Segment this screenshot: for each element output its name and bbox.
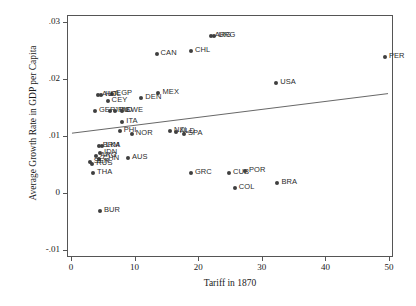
data-point-label: THA [97,167,112,176]
data-point-marker [130,132,134,136]
data-point-label: ITA [126,116,137,125]
data-point-marker [275,181,279,185]
data-point-label: RUS [96,158,112,167]
data-point-marker [126,156,130,160]
y-tick-mark [63,22,67,23]
data-point-marker [168,129,172,133]
data-point-marker [106,99,110,103]
y-tick-label: -.01 [20,244,60,254]
data-point-marker [189,49,193,53]
y-tick-mark [63,193,67,194]
data-point-label: AUS [132,152,148,161]
x-tick-label: 0 [51,262,91,272]
data-point-marker [155,52,159,56]
data-point-label: SPA [188,128,203,137]
data-point-label: NOR [136,128,153,137]
data-point-label: CHL [195,45,210,54]
x-axis-title: Tariff in 1870 [67,278,393,288]
data-point-label: URG [218,30,235,39]
data-point-label: PER [389,51,405,60]
data-point-marker [383,55,387,59]
data-point-marker [227,171,231,175]
scatter-plot-figure: Average Growth Rate in GDP per Capita AR… [0,0,416,306]
x-tick-mark [389,257,390,261]
x-tick-label: 30 [242,262,282,272]
x-tick-label: 50 [369,262,409,272]
data-point-label: MEX [162,87,179,96]
x-tick-mark [135,257,136,261]
data-point-label: CUB [233,167,249,176]
data-point-label: DEN [145,92,161,101]
data-point-marker [120,120,124,124]
x-tick-mark [325,257,326,261]
data-point-label: BUR [104,205,120,214]
x-tick-label: 10 [115,262,155,272]
data-point-marker [113,109,117,113]
plot-area: ARGURGCHLCANPERUSAMEXEGPAUTHOLDENCEYGERJ… [68,16,392,256]
data-point-marker [108,109,112,113]
data-point-label: POR [249,165,266,174]
plot-frame: ARGURGCHLCANPERUSAMEXEGPAUTHOLDENCEYGERJ… [67,15,393,257]
data-point-marker [93,109,97,113]
trend-line [68,16,392,256]
data-point-label: BRA [281,177,297,186]
y-tick-label: 0 [20,187,60,197]
data-point-label: CAN [161,48,177,57]
data-point-marker [182,132,186,136]
data-point-label: CEY [112,95,128,104]
data-point-marker [274,81,278,85]
y-tick-mark [63,250,67,251]
data-point-label: SWE [126,105,143,114]
data-point-marker [120,109,124,113]
y-tick-label: .03 [20,16,60,26]
data-point-marker [233,186,237,190]
data-point-marker [118,129,122,133]
data-point-label: USA [280,77,296,86]
y-tick-label: .01 [20,130,60,140]
data-point-marker [189,171,193,175]
x-tick-mark [262,257,263,261]
x-tick-mark [71,257,72,261]
data-point-marker [90,162,94,166]
x-tick-label: 40 [305,262,345,272]
y-tick-mark [63,79,67,80]
data-point-label: GRC [195,167,212,176]
y-tick-mark [63,136,67,137]
x-tick-label: 20 [178,262,218,272]
data-point-marker [139,96,143,100]
x-tick-mark [198,257,199,261]
data-point-label: COL [239,182,255,191]
y-axis-title: Average Growth Rate in GDP per Capita [28,2,38,244]
data-point-marker [91,171,95,175]
data-point-marker [98,209,102,213]
y-tick-label: .02 [20,73,60,83]
